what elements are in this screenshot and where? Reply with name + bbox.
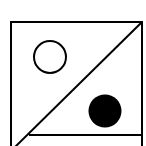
puzzle-figure [0,0,146,146]
diagonal-line [14,22,142,146]
filled-circle-icon [89,95,122,128]
open-circle-icon [34,41,66,73]
